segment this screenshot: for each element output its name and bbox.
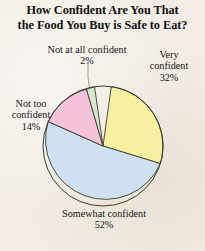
pie-label-very-confident: Very confident 32% bbox=[136, 49, 202, 83]
pie-label-not-at-all-confident-value: 2% bbox=[26, 55, 148, 66]
pie-label-very-confident-value: 32% bbox=[136, 72, 202, 83]
pie-label-not-too-confident-value: 14% bbox=[2, 121, 60, 132]
pie-label-not-too-confident-name-line-1: Not too bbox=[2, 98, 60, 109]
pie-label-very-confident-name-line-1: Very bbox=[136, 49, 202, 60]
pie-label-not-too-confident-name-line-2: confident bbox=[2, 109, 60, 120]
pie-label-not-at-all-confident: Not at all confident 2% bbox=[26, 44, 148, 67]
pie-label-not-at-all-confident-name: Not at all confident bbox=[26, 44, 148, 55]
pie-label-somewhat-confident: Somewhat confident 52% bbox=[34, 208, 174, 231]
pie-label-not-too-confident: Not too confident 14% bbox=[2, 98, 60, 132]
pie-chart-figure: How Confident Are You That the Food You … bbox=[0, 0, 205, 251]
pie-label-very-confident-name-line-2: confident bbox=[136, 60, 202, 71]
pie-label-somewhat-confident-value: 52% bbox=[34, 219, 174, 230]
pie-label-somewhat-confident-name: Somewhat confident bbox=[34, 208, 174, 219]
